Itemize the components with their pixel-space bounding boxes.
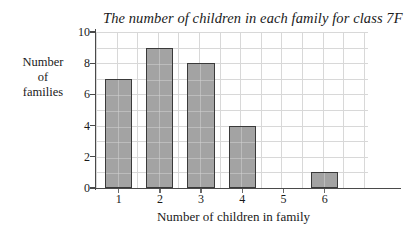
bar-inner-gridlines: [188, 64, 213, 187]
x-axis-tick-label-6: 6: [313, 192, 337, 207]
bar-inner-gridlines: [106, 80, 131, 187]
x-axis-title: Number of children in family: [96, 209, 371, 225]
plot-area: [96, 32, 368, 188]
bar-gridline-vertical: [159, 49, 160, 187]
y-axis-tick-label: 4: [68, 118, 90, 133]
bar-gridline-vertical: [241, 127, 242, 187]
bar-gridline-horizontal: [188, 127, 213, 128]
bar-gridline-horizontal: [230, 158, 255, 159]
y-axis-tick: [90, 187, 96, 188]
gridline-vertical: [302, 32, 303, 188]
bar-chart: The number of children in each family fo…: [0, 0, 411, 239]
bar-inner-gridlines: [312, 173, 337, 187]
bar-inner-gridlines: [230, 127, 255, 187]
bar-4: [229, 126, 256, 188]
gridline-vertical: [323, 32, 324, 188]
bar-gridline-horizontal: [188, 173, 213, 174]
bar-gridline-vertical: [118, 80, 119, 187]
x-axis-tick-label-4: 4: [230, 192, 254, 207]
y-axis-tick-label: 2: [68, 149, 90, 164]
bar-gridline-horizontal: [188, 142, 213, 143]
bar-gridline-horizontal: [188, 158, 213, 159]
x-axis-tick-label-5: 5: [272, 192, 296, 207]
x-axis-tick-label-2: 2: [148, 192, 172, 207]
bar-1: [105, 79, 132, 188]
y-axis-tick: [90, 156, 96, 157]
gridline-vertical: [281, 32, 282, 188]
bar-gridline-horizontal: [188, 111, 213, 112]
bar-2: [146, 48, 173, 188]
bar-gridline-horizontal: [147, 173, 172, 174]
y-axis-tick: [90, 94, 96, 95]
chart-title: The number of children in each family fo…: [103, 10, 403, 27]
bar-gridline-horizontal: [147, 64, 172, 65]
gridline-vertical: [364, 32, 365, 188]
bar-gridline-horizontal: [106, 127, 131, 128]
x-axis-line: [95, 188, 401, 189]
bar-gridline-vertical: [200, 64, 201, 187]
bar-gridline-horizontal: [106, 158, 131, 159]
bar-gridline-horizontal: [188, 95, 213, 96]
bar-gridline-horizontal: [147, 158, 172, 159]
bar-gridline-horizontal: [106, 111, 131, 112]
bar-gridline-horizontal: [230, 142, 255, 143]
bar-gridline-horizontal: [147, 95, 172, 96]
y-axis-title-line-1: Number: [2, 55, 84, 70]
bar-gridline-horizontal: [147, 111, 172, 112]
bar-gridline-horizontal: [188, 80, 213, 81]
bar-gridline-horizontal: [147, 80, 172, 81]
bar-gridline-horizontal: [106, 95, 131, 96]
gridline-vertical: [261, 32, 262, 188]
bar-gridline-horizontal: [147, 127, 172, 128]
bar-gridline-horizontal: [106, 173, 131, 174]
y-axis-title: Number of families: [2, 55, 84, 100]
gridline-vertical: [137, 32, 138, 188]
bar-gridline-horizontal: [230, 173, 255, 174]
bar-3: [187, 63, 214, 188]
y-axis-tick-label: 0: [68, 181, 90, 196]
y-axis-tick: [90, 125, 96, 126]
gridline-vertical: [220, 32, 221, 188]
gridline-vertical: [178, 32, 179, 188]
x-axis-tick-label-3: 3: [189, 192, 213, 207]
y-axis-line: [95, 29, 96, 190]
bar-6: [311, 172, 338, 188]
y-axis-tick: [90, 63, 96, 64]
bar-inner-gridlines: [147, 49, 172, 187]
bar-gridline-vertical: [324, 173, 325, 187]
bar-gridline-horizontal: [147, 142, 172, 143]
y-axis-title-line-3: families: [2, 85, 84, 100]
y-axis-title-line-2: of: [2, 70, 84, 85]
x-axis-tick-label-1: 1: [107, 192, 131, 207]
y-axis-tick-label: 10: [68, 25, 90, 40]
bar-gridline-horizontal: [106, 142, 131, 143]
gridline-vertical: [343, 32, 344, 188]
y-axis-tick: [90, 31, 96, 32]
